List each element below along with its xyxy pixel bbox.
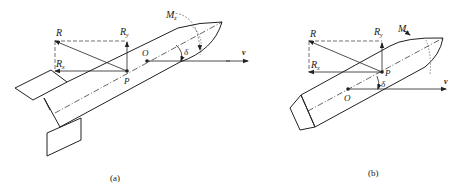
delta-arc-a	[176, 45, 182, 61]
label-v-a: v	[242, 48, 246, 57]
label-mz-b: Mz	[397, 23, 409, 35]
label-v-b: v	[444, 77, 448, 86]
label-delta-a: δ	[184, 47, 189, 57]
rocket-force-diagram: R Ry Rx P O δ Mz (a) v	[0, 0, 456, 191]
label-mz-a: Mz	[165, 9, 177, 21]
panel-b: R Ry Rx P O δ Mz v (b)	[290, 23, 448, 178]
body-axis-a	[55, 22, 222, 113]
rocket-body-a	[44, 22, 222, 127]
nose-section-a	[190, 25, 201, 55]
label-r-b: R	[309, 28, 316, 39]
caption-a: (a)	[110, 173, 120, 183]
label-rx-b: Rx	[310, 59, 320, 71]
label-p-a: P	[123, 76, 130, 86]
pressure-center-a	[125, 69, 129, 73]
velocity-label-a-group: v	[226, 48, 248, 61]
label-o-b: O	[344, 93, 351, 103]
label-ry-b: Ry	[373, 26, 383, 38]
projectile-body-b	[290, 38, 443, 130]
label-o-a: O	[142, 48, 149, 58]
mass-center-b	[346, 87, 350, 91]
panel-a: R Ry Rx P O δ Mz (a)	[15, 9, 230, 183]
pressure-center-b	[380, 70, 384, 74]
label-p-b: P	[384, 68, 391, 78]
label-rx-a: Rx	[55, 58, 65, 70]
label-delta-b: δ	[381, 79, 386, 89]
tail-strut-a	[44, 98, 60, 127]
lower-fin-a	[47, 118, 81, 156]
force-r-a	[55, 41, 127, 71]
nose-section-b	[426, 40, 431, 75]
label-ry-a: Ry	[119, 26, 129, 38]
delta-arc-b	[377, 76, 379, 89]
upper-fin-a	[15, 70, 67, 100]
label-r-a: R	[55, 27, 62, 38]
caption-b: (b)	[368, 168, 379, 178]
mass-center-a	[145, 59, 149, 63]
